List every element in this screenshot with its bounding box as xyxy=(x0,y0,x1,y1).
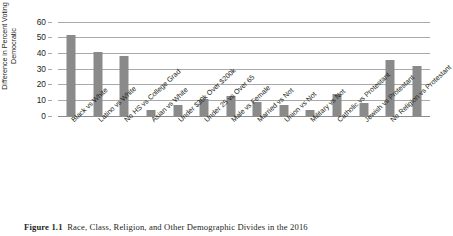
x-axis-labels: Black vs WhiteLatino vs WhiteNo HS vs Co… xyxy=(58,118,430,202)
y-tick-label-60: 60 xyxy=(10,18,46,26)
y-tick-label-40: 40 xyxy=(10,49,46,57)
bar-chart: Difference in Percent Voting Democratic … xyxy=(0,0,438,200)
y-tick-mark-60 xyxy=(48,22,52,23)
y-tick-label-10: 10 xyxy=(10,96,46,104)
figure-caption: Figure 1.1 Race, Class, Religion, and Ot… xyxy=(24,222,416,233)
y-tick-mark-0 xyxy=(48,116,52,117)
y-tick-label-50: 50 xyxy=(10,33,46,41)
y-tick-label-0: 0 xyxy=(10,112,46,120)
bar xyxy=(67,35,76,116)
y-tick-mark-10 xyxy=(48,100,52,101)
caption-text: Race, Class, Religion, and Other Demogra… xyxy=(67,222,308,232)
y-tick-mark-20 xyxy=(48,84,52,85)
y-tick-mark-40 xyxy=(48,53,52,54)
y-tick-mark-30 xyxy=(48,69,52,70)
bar-slot xyxy=(58,22,85,116)
y-tick-label-30: 30 xyxy=(10,65,46,73)
bar xyxy=(93,52,102,116)
bar xyxy=(386,60,395,116)
figure-number: Figure 1.1 xyxy=(24,222,63,232)
y-tick-mark-50 xyxy=(48,37,52,38)
y-tick-label-20: 20 xyxy=(10,80,46,88)
bar xyxy=(120,56,129,116)
